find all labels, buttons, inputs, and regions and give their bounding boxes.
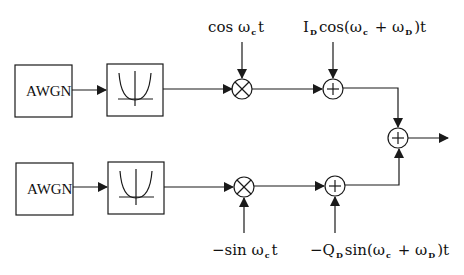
block-diagram: AWGN AWGN cos ωct IDcos(ωc + ωD)t −sin ω… [0, 0, 464, 275]
bottom-adder-label: −QDsin(ωc + ωD)t [310, 243, 449, 259]
bandpass-filter-icon [119, 169, 154, 205]
bandpass-filter-icon [118, 71, 153, 106]
top-adder-label: IDcos(ωc + ωD)t [303, 20, 426, 36]
top-mixer-label: cos ωct [208, 20, 264, 36]
awgn-label-top: AWGN [26, 83, 71, 100]
diagram-graphics [0, 0, 464, 275]
bottom-mixer-label: −sin ωct [212, 243, 278, 259]
awgn-label-bottom: AWGN [27, 181, 72, 198]
